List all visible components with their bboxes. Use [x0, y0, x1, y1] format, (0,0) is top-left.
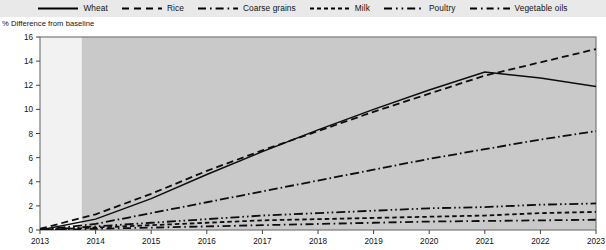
dashed-line-icon [122, 4, 162, 13]
x-tick-label: 2020 [420, 237, 439, 246]
line-chart: 0246810121416201320142015201620172018201… [0, 28, 606, 250]
x-tick-label: 2013 [31, 237, 50, 246]
y-tick-label: 6 [28, 154, 33, 163]
x-tick-label: 2021 [476, 237, 495, 246]
x-tick-label: 2022 [531, 237, 550, 246]
x-tick-label: 2018 [309, 237, 328, 246]
y-tick-label: 0 [28, 226, 33, 235]
y-tick-label: 10 [24, 105, 34, 114]
legend-label: Poultry [429, 4, 456, 13]
legend-item-coarse-grains[interactable]: Coarse grains [191, 0, 303, 17]
dash-dot-dot-line-icon [384, 4, 424, 13]
y-tick-label: 14 [24, 57, 34, 66]
legend-item-wheat[interactable]: Wheat [31, 0, 114, 17]
legend-item-milk[interactable]: Milk [303, 0, 377, 17]
dash-dot-line-icon [198, 4, 238, 13]
y-tick-label: 4 [28, 178, 33, 187]
x-tick-label: 2023 [587, 237, 606, 246]
legend-item-rice[interactable]: Rice [115, 0, 191, 17]
y-tick-label: 12 [24, 81, 34, 90]
y-tick-label: 2 [28, 202, 33, 211]
plot-background-projection [82, 37, 596, 230]
plot-background-historical [40, 37, 82, 230]
x-tick-label: 2017 [253, 237, 272, 246]
x-tick-label: 2014 [86, 237, 105, 246]
legend-item-vegetable-oils[interactable]: Vegetable oils [463, 0, 575, 17]
legend-item-poultry[interactable]: Poultry [377, 0, 463, 17]
chart-legend: WheatRiceCoarse grainsMilkPoultryVegetab… [0, 0, 606, 17]
short-dashed-line-icon [310, 4, 350, 13]
legend-label: Rice [167, 4, 184, 13]
solid-line-icon [38, 4, 78, 13]
legend-label: Coarse grains [243, 4, 296, 13]
x-tick-label: 2016 [198, 237, 217, 246]
x-tick-label: 2019 [364, 237, 383, 246]
y-tick-label: 8 [28, 130, 33, 139]
y-axis-title: % Difference from baseline [2, 19, 94, 28]
legend-label: Wheat [83, 4, 107, 13]
y-tick-label: 16 [24, 33, 34, 42]
legend-label: Vegetable oils [515, 4, 568, 13]
dash-dot-line-icon [470, 4, 510, 13]
chart-area: 0246810121416201320142015201620172018201… [0, 28, 606, 250]
legend-label: Milk [355, 4, 370, 13]
x-tick-label: 2015 [142, 237, 161, 246]
